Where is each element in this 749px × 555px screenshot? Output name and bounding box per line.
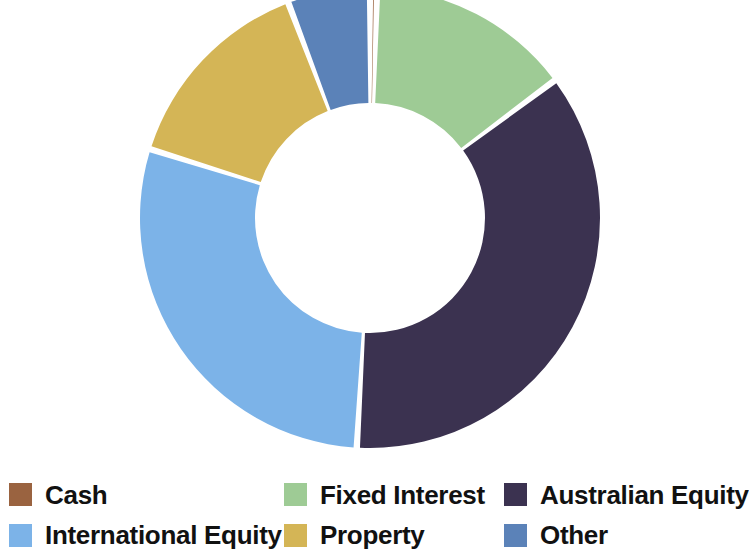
- legend-swatch-property: [284, 524, 307, 547]
- donut-slice-group: [140, 0, 600, 448]
- donut-slice-property[interactable]: [152, 4, 328, 182]
- legend-swatch-international-equity: [9, 524, 32, 547]
- legend-swatch-other: [504, 524, 527, 547]
- donut-slice-cash[interactable]: [372, 0, 374, 103]
- donut-slice-international-equity[interactable]: [140, 152, 362, 447]
- legend-label-property: Property: [320, 522, 425, 548]
- donut-plot-area: [0, 0, 746, 462]
- chart-legend: Cash Fixed Interest Australian Equity In…: [0, 474, 746, 555]
- legend-label-australian-equity: Australian Equity: [540, 482, 749, 508]
- donut-svg: [0, 0, 746, 462]
- legend-item-other[interactable]: Other: [500, 515, 746, 555]
- legend-label-fixed-interest: Fixed Interest: [320, 482, 485, 508]
- legend-swatch-australian-equity: [504, 483, 527, 506]
- legend-item-property[interactable]: Property: [268, 515, 500, 555]
- legend-label-other: Other: [540, 522, 608, 548]
- legend-swatch-fixed-interest: [284, 483, 307, 506]
- legend-swatch-cash: [9, 483, 32, 506]
- legend-item-fixed-interest[interactable]: Fixed Interest: [268, 475, 500, 515]
- legend-label-cash: Cash: [45, 482, 107, 508]
- legend-label-international-equity: International Equity: [45, 522, 282, 548]
- legend-item-australian-equity[interactable]: Australian Equity: [500, 475, 746, 515]
- legend-item-cash[interactable]: Cash: [0, 475, 268, 515]
- legend-item-international-equity[interactable]: International Equity: [0, 515, 268, 555]
- donut-slice-australian-equity[interactable]: [360, 83, 600, 448]
